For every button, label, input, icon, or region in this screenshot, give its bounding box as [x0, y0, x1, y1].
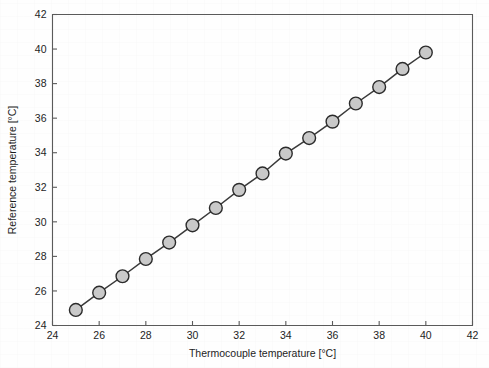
scatter-plot: 24262830323436384042 2426283032343638404… — [0, 0, 489, 368]
data-point-marker — [373, 81, 386, 94]
x-tick-label: 42 — [467, 329, 479, 341]
data-point-marker — [396, 63, 409, 76]
data-point-marker — [326, 115, 339, 128]
x-tick-label: 26 — [93, 329, 105, 341]
data-point-marker — [256, 167, 269, 180]
data-series-group — [69, 46, 432, 316]
x-axis-title: Thermocouple temperature [°C] — [189, 347, 336, 359]
y-axis-tick-labels: 24262830323436384042 — [35, 8, 47, 331]
x-tick-label: 32 — [233, 329, 245, 341]
data-point-marker — [349, 97, 362, 110]
x-tick-label: 40 — [420, 329, 432, 341]
y-axis-ticks — [53, 15, 58, 326]
y-tick-label: 36 — [35, 112, 47, 124]
y-axis-title: Reference temperature [°C] — [6, 106, 18, 235]
data-point-marker — [139, 253, 152, 266]
y-tick-label: 30 — [35, 216, 47, 228]
data-point-marker — [279, 147, 292, 160]
y-tick-label: 32 — [35, 181, 47, 193]
y-tick-label: 34 — [35, 146, 47, 158]
x-axis-ticks — [53, 321, 473, 326]
x-tick-label: 34 — [280, 329, 292, 341]
data-point-marker — [69, 304, 82, 317]
x-tick-label: 36 — [327, 329, 339, 341]
y-tick-label: 38 — [35, 77, 47, 89]
data-point-marker — [419, 46, 432, 59]
y-tick-label: 26 — [35, 285, 47, 297]
y-tick-label: 24 — [35, 319, 47, 331]
x-tick-label: 30 — [187, 329, 199, 341]
chart-figure: 24262830323436384042 2426283032343638404… — [0, 0, 489, 368]
y-tick-label: 28 — [35, 250, 47, 262]
y-tick-label: 40 — [35, 43, 47, 55]
y-tick-label: 42 — [35, 8, 47, 20]
x-tick-label: 28 — [140, 329, 152, 341]
x-axis-tick-labels: 24262830323436384042 — [47, 329, 479, 341]
data-point-marker — [186, 219, 199, 232]
data-point-marker — [233, 183, 246, 196]
data-point-marker — [163, 236, 176, 249]
series-line — [76, 53, 426, 310]
data-point-marker — [93, 286, 106, 299]
data-point-marker — [209, 202, 222, 215]
data-point-marker — [303, 132, 316, 145]
data-point-marker — [116, 270, 129, 283]
x-tick-label: 38 — [373, 329, 385, 341]
x-tick-label: 24 — [47, 329, 59, 341]
